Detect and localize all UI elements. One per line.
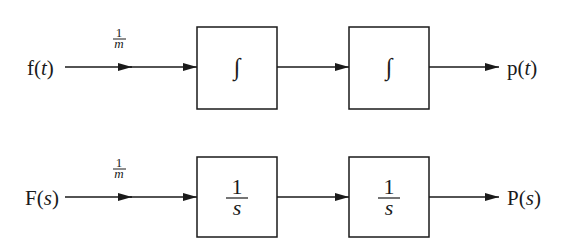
svg-text:m: m [114, 166, 123, 181]
row-time-domain: f(t) 1 m ∫ ∫ p(t) [27, 25, 537, 109]
gain-label-1-over-m: 1 m [113, 25, 126, 51]
integral-icon: ∫ [384, 54, 394, 82]
svg-text:m: m [114, 36, 123, 51]
svg-text:s: s [385, 195, 394, 220]
input-label-F-s: F(s) [25, 186, 59, 210]
svg-text:s: s [233, 195, 242, 220]
output-label-p-t: p(t) [507, 56, 537, 80]
block-diagram: f(t) 1 m ∫ ∫ p(t) F(s) 1 m 1 s [0, 0, 563, 247]
input-label-f-t: f(t) [27, 56, 54, 80]
integral-icon: ∫ [232, 54, 242, 82]
row-laplace-domain: F(s) 1 m 1 s 1 s P(s) [25, 155, 541, 237]
gain-label-1-over-m: 1 m [113, 155, 126, 181]
output-label-P-s: P(s) [507, 186, 541, 210]
